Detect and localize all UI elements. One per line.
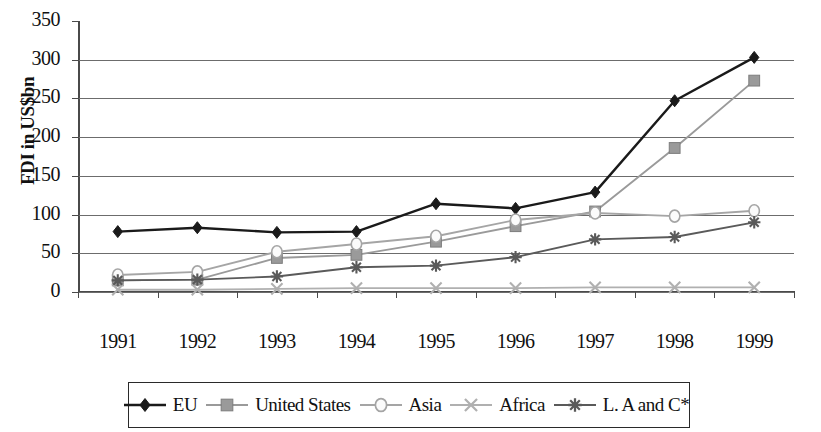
- data-point-marker: [589, 233, 601, 245]
- data-point-marker: [352, 226, 361, 238]
- data-point-marker: [431, 198, 440, 210]
- x-tickmark: [78, 291, 79, 298]
- data-point-marker: [749, 75, 760, 86]
- legend-item[interactable]: United States: [204, 394, 357, 416]
- data-point-marker: [113, 226, 122, 238]
- x-tickmark: [555, 291, 556, 298]
- y-tick-label: 350: [14, 9, 60, 29]
- x-tick-label: 1991: [83, 330, 153, 353]
- y-tick-label: 0: [14, 280, 60, 300]
- y-tick-label: 300: [14, 48, 60, 68]
- chart-legend: EUUnited StatesAsiaAfricaL. A and C*: [128, 382, 690, 428]
- legend-label: EU: [168, 394, 204, 416]
- legend-marker-asterisk-icon: [552, 394, 598, 416]
- legend-marker-cross-x-icon: [448, 394, 494, 416]
- data-point-marker: [272, 246, 282, 258]
- data-point-marker: [669, 210, 679, 222]
- data-point-marker: [590, 207, 600, 219]
- x-tick-label: 1997: [560, 330, 630, 353]
- chart-figure: FDI in US$bn 050100150200250300350 19911…: [0, 0, 821, 432]
- gridline: [78, 292, 794, 293]
- x-tickmark: [714, 291, 715, 298]
- x-tick-label: 1994: [321, 330, 391, 353]
- x-tick-label: 1998: [640, 330, 710, 353]
- data-point-marker: [271, 270, 283, 282]
- y-tick-label: 200: [14, 125, 60, 145]
- legend-label: Asia: [404, 394, 449, 416]
- data-point-marker: [140, 399, 150, 412]
- data-point-marker: [351, 249, 362, 260]
- y-tick-label: 100: [14, 203, 60, 223]
- x-tick-label: 1995: [401, 330, 471, 353]
- legend-item[interactable]: Asia: [358, 394, 449, 416]
- x-tick-label: 1993: [242, 330, 312, 353]
- legend-item[interactable]: EU: [122, 394, 204, 416]
- legend-label: L. A and C*: [598, 394, 696, 416]
- series-united-states: [112, 75, 759, 286]
- data-point-marker: [748, 216, 760, 228]
- x-tickmark: [237, 291, 238, 298]
- series-africa: [112, 282, 760, 296]
- legend-label: United States: [250, 394, 357, 416]
- x-tick-label: 1992: [162, 330, 232, 353]
- plot-area: [78, 21, 794, 292]
- x-tick-label: 1996: [481, 330, 551, 353]
- data-point-marker: [191, 273, 203, 285]
- x-tickmark: [158, 291, 159, 298]
- legend-marker-filled-diamond-icon: [122, 394, 168, 416]
- legend-item[interactable]: Africa: [448, 394, 552, 416]
- data-point-marker: [510, 214, 520, 226]
- data-point-marker: [750, 51, 759, 63]
- y-tick-label: 250: [14, 86, 60, 106]
- data-point-marker: [193, 222, 202, 234]
- data-point-marker: [669, 143, 680, 154]
- data-point-marker: [511, 202, 520, 214]
- data-point-marker: [430, 259, 442, 271]
- data-point-marker: [221, 399, 233, 411]
- x-tickmark: [317, 291, 318, 298]
- x-tick-label: 1999: [719, 330, 789, 353]
- legend-marker-open-circle-icon: [358, 394, 404, 416]
- legend-label: Africa: [494, 394, 552, 416]
- y-tick-label: 50: [14, 241, 60, 261]
- x-tickmark: [396, 291, 397, 298]
- data-point-marker: [509, 251, 521, 263]
- data-point-marker: [749, 205, 759, 217]
- data-point-marker: [668, 231, 680, 243]
- x-tickmark: [476, 291, 477, 298]
- data-point-marker: [431, 230, 441, 242]
- x-tickmark: [794, 291, 795, 298]
- data-point-marker: [351, 238, 361, 250]
- x-tickmark: [635, 291, 636, 298]
- data-point-marker: [350, 261, 362, 273]
- data-point-marker: [568, 398, 581, 411]
- series-eu: [113, 51, 759, 238]
- series-layer: [78, 21, 794, 292]
- legend-item[interactable]: L. A and C*: [552, 394, 696, 416]
- data-point-marker: [272, 226, 281, 238]
- series-line: [118, 81, 754, 281]
- legend-marker-filled-square-icon: [204, 394, 250, 416]
- data-point-marker: [375, 399, 386, 412]
- y-axis-tick-labels: 050100150200250300350: [14, 0, 60, 300]
- data-point-marker: [112, 274, 124, 286]
- y-tick-label: 150: [14, 164, 60, 184]
